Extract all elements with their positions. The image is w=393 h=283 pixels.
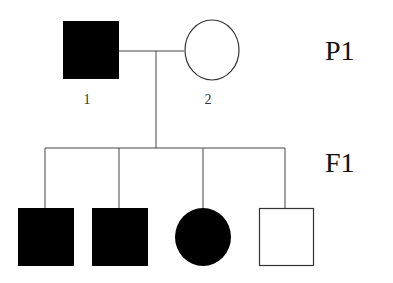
- generation-label-p1: P1: [325, 35, 355, 66]
- parent-female-unaffected: [185, 20, 239, 80]
- individual-label-1: 1: [84, 92, 91, 107]
- child-male-affected: [92, 208, 148, 266]
- generation-label-f1: F1: [325, 147, 355, 178]
- individual-label-2: 2: [205, 92, 212, 107]
- pedigree-svg: 1 2 P1 F1: [0, 0, 393, 283]
- parent-male-affected: [63, 21, 119, 79]
- pedigree-diagram: 1 2 P1 F1: [0, 0, 393, 283]
- child-male-unaffected: [260, 209, 314, 266]
- child-female-affected: [175, 208, 231, 266]
- child-male-affected: [18, 208, 74, 266]
